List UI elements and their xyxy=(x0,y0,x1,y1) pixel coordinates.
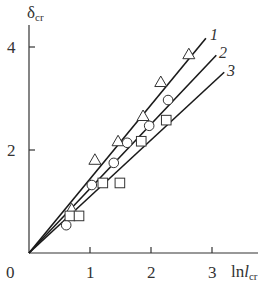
circle-marker xyxy=(144,121,154,131)
triangle-marker xyxy=(137,110,149,121)
y-tick-label-4: 4 xyxy=(7,39,16,56)
y-axis-symbol: δ xyxy=(27,3,35,22)
fit-line-3 xyxy=(29,72,224,253)
square-marker xyxy=(74,211,84,221)
x-tick-label-2: 2 xyxy=(147,264,156,281)
x-tick-label-1: 1 xyxy=(86,264,95,281)
x-axis-ln: ln xyxy=(231,262,244,281)
square-marker xyxy=(136,136,146,146)
y-axis-label: δcr xyxy=(27,4,44,23)
triangle-marker xyxy=(155,76,167,87)
line-label-3: 3 xyxy=(227,63,235,79)
origin-label: 0 xyxy=(6,264,15,281)
y-tick-label-2: 2 xyxy=(7,142,16,159)
square-marker xyxy=(115,178,125,188)
square-marker xyxy=(98,178,108,188)
x-axis-label: lnlcr xyxy=(231,263,258,282)
chart-canvas xyxy=(0,0,264,282)
circle-marker xyxy=(163,95,173,105)
circle-marker xyxy=(109,158,119,168)
y-axis-subscript: cr xyxy=(35,11,44,23)
circle-marker xyxy=(122,138,132,148)
x-tick-label-3: 3 xyxy=(208,264,217,281)
line-label-2: 2 xyxy=(219,45,227,61)
square-marker xyxy=(65,211,75,221)
x-axis-subscript: cr xyxy=(249,270,258,282)
circle-marker xyxy=(87,180,97,190)
fit-line-2 xyxy=(29,55,216,253)
circle-marker xyxy=(61,220,71,230)
triangle-marker xyxy=(89,154,101,165)
square-marker xyxy=(161,115,171,125)
line-label-1: 1 xyxy=(210,27,218,43)
